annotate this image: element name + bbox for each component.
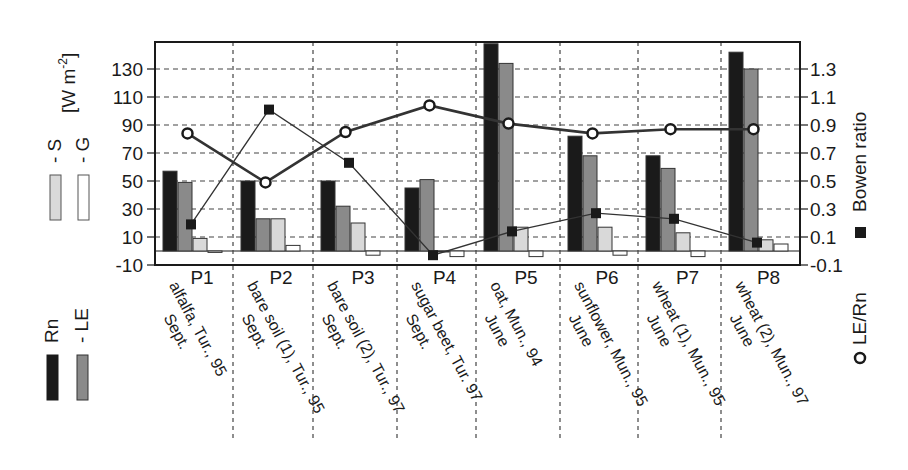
bar-rn	[241, 181, 255, 251]
bar-le	[256, 219, 270, 251]
category-label: P4	[433, 267, 457, 288]
category-description: wheat (2), Mun., 97June	[714, 278, 812, 418]
le-rn-marker	[588, 128, 598, 138]
y-tick-label: 110	[113, 87, 143, 108]
bar-le	[583, 156, 597, 251]
legend-left: Rn - LE - S - G [W m-2]	[41, 53, 93, 400]
category-description: sunflower, Mun., 95June	[553, 278, 651, 418]
category-label: P5	[514, 267, 537, 288]
category-label: P8	[757, 267, 780, 288]
y-tick-label: 10	[122, 227, 143, 248]
bar-s	[598, 227, 612, 251]
bar-le	[178, 182, 192, 251]
bar-s	[193, 238, 207, 251]
category-label: P3	[351, 267, 374, 288]
y-axis-left: -101030507090110130	[111, 59, 155, 276]
y-axis-right: -0.10.10.30.50.70.91.11.3	[800, 59, 843, 276]
legend-label-bowen-ratio: Bowen ratio	[849, 112, 870, 212]
y-tick-label: -10	[116, 255, 143, 276]
bowen-ratio-chart: -101030507090110130 -0.10.10.30.50.70.91…	[0, 0, 908, 470]
y-tick-label: 70	[122, 143, 143, 164]
category-label: P2	[269, 267, 292, 288]
bar-le	[661, 168, 675, 251]
le-rn-marker	[666, 124, 676, 134]
bar-g	[613, 251, 627, 255]
bowen-ratio-marker	[591, 208, 601, 218]
legend-swatch-rn	[47, 355, 58, 400]
bowen-ratio-marker	[186, 219, 196, 229]
x-axis-categories: P1alfalfa, Tur., 95Sept.P2bare soil (1),…	[148, 267, 811, 426]
bowen-ratio-marker	[752, 238, 762, 248]
legend-swatch-le	[77, 355, 88, 400]
y2-tick-label: 0.5	[810, 171, 836, 192]
bowen-ratio-marker	[507, 226, 517, 236]
y2-tick-label: 0.3	[810, 199, 836, 220]
legend-label-g: - G	[72, 137, 93, 163]
legend-label-rn: Rn	[41, 319, 62, 343]
bar-rn	[729, 52, 743, 251]
y-tick-label: 90	[122, 115, 143, 136]
legend-right: Bowen ratio LE/Rn	[849, 112, 870, 363]
le-rn-marker	[425, 100, 435, 110]
category-label: P1	[190, 267, 213, 288]
y-axis-units-label: [W m-2]	[56, 53, 79, 113]
y2-tick-label: 0.9	[810, 115, 836, 136]
bar-le	[420, 180, 434, 251]
y-tick-label: 130	[111, 59, 143, 80]
bar-g	[450, 251, 464, 257]
bar-g	[691, 251, 705, 257]
legend-label-le: - LE	[71, 308, 92, 343]
bar-rn	[484, 44, 498, 251]
bar-g	[774, 244, 788, 251]
y2-tick-label: -0.1	[810, 255, 843, 276]
category-label: P6	[595, 267, 618, 288]
legend-label-le-rn: LE/Rn	[849, 292, 870, 345]
le-rn-marker	[504, 119, 514, 129]
bar-s	[271, 219, 285, 251]
bowen-ratio-marker	[669, 214, 679, 224]
le-rn-marker	[183, 128, 193, 138]
bar-rn	[163, 171, 177, 251]
category-description: sugar beet, Tur. 97Sept.	[390, 278, 485, 413]
bar-rn	[405, 188, 419, 251]
bar-g	[286, 245, 300, 251]
y-tick-label: 50	[122, 171, 143, 192]
le-rn-marker	[261, 177, 271, 187]
bar-g	[529, 251, 543, 257]
y2-tick-label: 1.3	[810, 59, 836, 80]
bar-rn	[321, 181, 335, 251]
bar-g	[366, 251, 380, 255]
bar-le	[499, 63, 513, 251]
legend-square-marker-icon	[855, 227, 866, 238]
le-rn-marker	[749, 124, 759, 134]
legend-circle-marker-icon	[855, 353, 865, 363]
bar-rn	[646, 156, 660, 251]
category-label: P7	[676, 267, 699, 288]
category-description: oat, Mun., 94June	[469, 278, 546, 378]
bowen-ratio-marker	[428, 250, 438, 260]
bar-rn	[568, 136, 582, 251]
le-rn-marker	[341, 127, 351, 137]
bar-s	[676, 233, 690, 251]
bar-le	[744, 69, 758, 251]
y2-tick-label: 1.1	[810, 87, 836, 108]
legend-swatch-s	[50, 175, 61, 220]
bar-s	[351, 223, 365, 251]
bar-le	[336, 206, 350, 251]
legend-swatch-g	[78, 175, 89, 220]
y2-tick-label: 0.7	[810, 143, 836, 164]
y-tick-label: 30	[122, 199, 143, 220]
category-description: alfalfa, Tur., 95Sept.	[148, 278, 230, 388]
bowen-ratio-marker	[344, 158, 354, 168]
y2-tick-label: 0.1	[810, 227, 836, 248]
legend-label-s: - S	[44, 139, 65, 163]
bar-g	[208, 251, 222, 252]
bowen-ratio-marker	[264, 105, 274, 115]
